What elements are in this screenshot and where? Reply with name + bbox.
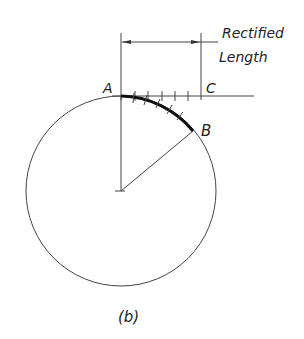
radius-to-b <box>121 131 193 191</box>
figure-caption: (b) <box>118 308 139 326</box>
label-c: C <box>206 80 216 96</box>
arrowhead-left <box>122 40 131 44</box>
arrowhead-right <box>191 40 200 44</box>
label-a: A <box>102 80 113 96</box>
label-rectified: Rectified <box>222 25 284 41</box>
rectified-length-diagram: A C B Rectified Length (b) <box>0 0 304 339</box>
label-b: B <box>201 122 211 140</box>
label-length: Length <box>219 49 268 65</box>
